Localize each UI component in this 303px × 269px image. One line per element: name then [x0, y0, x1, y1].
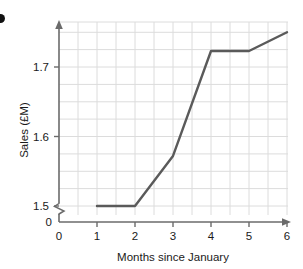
y-tick-label-0: 0	[46, 216, 52, 228]
x-tick-label-1: 1	[94, 230, 100, 242]
line-chart-figure: 1.7 1.6 1.5 0 0 1 2 3 4 5 6 Sales (£M) M…	[0, 0, 303, 269]
grid-lines-vertical	[78, 22, 287, 215]
x-tick-label-6: 6	[284, 230, 290, 242]
y-tick-label-1-5: 1.5	[33, 200, 49, 212]
x-tick-label-4: 4	[208, 230, 215, 242]
x-tick-label-2: 2	[132, 230, 138, 242]
x-axis-tick-labels: 0 1 2 3 4 5 6	[56, 230, 290, 242]
x-tick-label-0: 0	[56, 230, 62, 242]
x-tick-label-3: 3	[170, 230, 176, 242]
y-tick-label-1-7: 1.7	[33, 61, 49, 73]
y-axis-tick-labels: 1.7 1.6 1.5 0	[33, 61, 52, 228]
y-tick-label-1-6: 1.6	[33, 131, 49, 143]
x-axis-title: Months since January	[117, 251, 229, 263]
y-axis-title: Sales (£M)	[18, 102, 30, 158]
x-tick-label-5: 5	[246, 230, 252, 242]
chart-plot-area: 1.7 1.6 1.5 0 0 1 2 3 4 5 6 Sales (£M) M…	[0, 0, 303, 269]
grid-lines	[59, 22, 288, 215]
y-axis-arrow-icon	[55, 20, 63, 29]
y-axis-break-icon	[55, 204, 65, 215]
